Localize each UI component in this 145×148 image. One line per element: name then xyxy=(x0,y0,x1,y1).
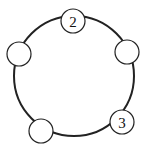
circle-diagram: 2 3 xyxy=(0,0,145,148)
node-left-circle xyxy=(7,42,31,66)
node-lower-left xyxy=(29,119,53,143)
node-top: 2 xyxy=(61,9,85,33)
node-lower-right: 3 xyxy=(110,110,134,134)
node-right xyxy=(115,40,139,64)
node-right-circle xyxy=(115,40,139,64)
node-lower-left-circle xyxy=(29,119,53,143)
node-left xyxy=(7,42,31,66)
node-lower-right-label: 3 xyxy=(118,115,126,131)
node-top-label: 2 xyxy=(69,14,77,30)
